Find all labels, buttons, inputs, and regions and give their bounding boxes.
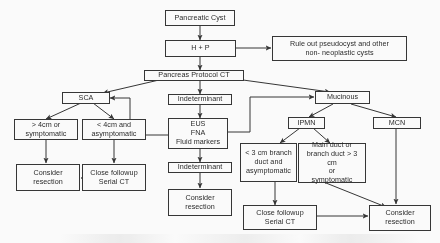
edge-ct-to-sca [103,80,159,93]
node-close-followup-right: Close followup Serial CT [243,205,317,230]
node-branch-duct-small: < 3 cm branch duct and asymptomatic [240,143,297,182]
node-less-4cm-asymptomatic: < 4cm and asymptomatic [82,119,146,140]
node-consider-resection-left: Consider resection [16,164,80,191]
node-sca: SCA [62,92,110,104]
node-branch-duct-large: Main duct or branch duct > 3 cm or sympt… [298,143,366,183]
scan-artifact-strip [0,234,440,243]
node-ipmn: IPMN [288,117,325,129]
node-greater-4cm-symptomatic: > 4cm or symptomatic [14,119,78,140]
node-mcn: MCN [373,117,421,129]
edge-sca-to-gt4cm [46,103,81,119]
node-indeterminate-bottom: Indeterminant [168,162,232,173]
edge-mucinous-to-ipmn [309,104,333,117]
node-consider-resection-right: Consider resection [369,205,431,231]
flowchart-canvas: Pancreatic Cyst H + P Rule out pseudocys… [0,0,440,243]
node-history-physical: H + P [165,40,236,57]
node-mucinous: Mucinous [315,91,370,104]
edge-mucinous-to-mcn [351,104,396,117]
node-pancreatic-cyst: Pancreatic Cyst [165,10,235,26]
node-close-followup-left: Close followup Serial CT [82,164,146,191]
edge-ipmn-to-branchsmall [280,128,300,143]
node-indeterminate-top: Indeterminant [168,94,232,105]
node-rule-out-pseudocyst: Rule out pseudocyst and other non- neopl… [272,36,407,61]
node-consider-resection-center: Consider resection [168,189,232,216]
node-pancreas-protocol-ct: Pancreas Protocol CT [144,70,244,81]
edge-branchlarge-to-consider [326,183,386,207]
node-eus-fna-fluid-markers: EUS FNA Fluid markers [168,118,228,149]
edge-sca-to-lt4cm [93,103,114,119]
